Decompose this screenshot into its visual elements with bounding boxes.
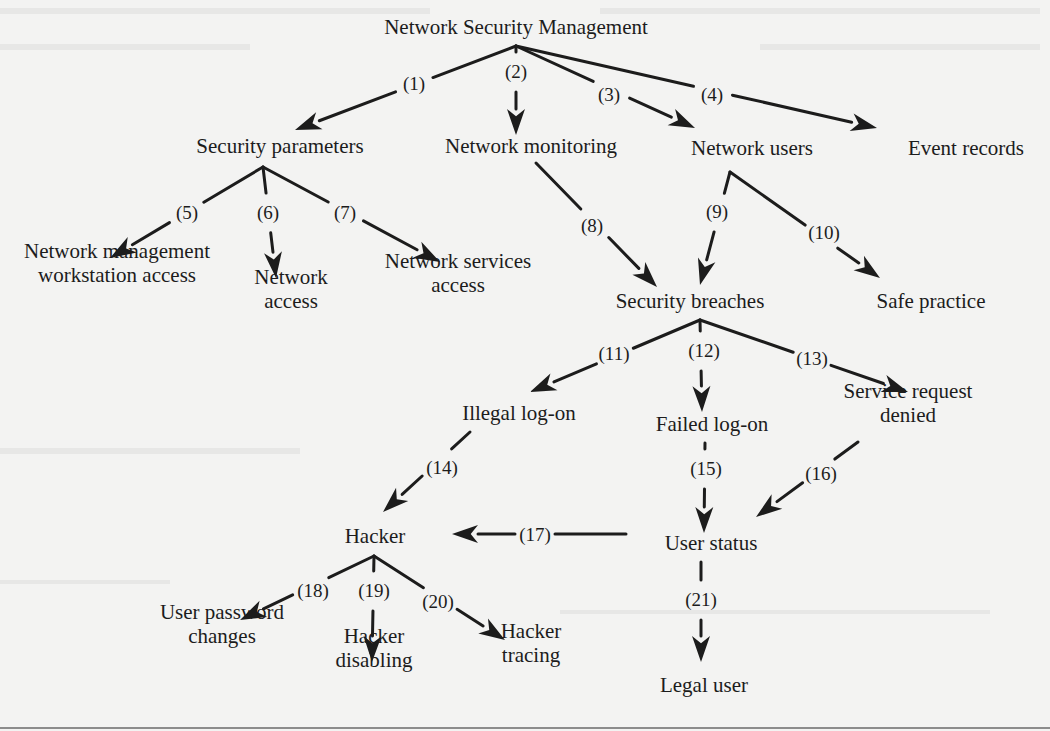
edge-number-label: (4) (701, 84, 723, 106)
node-security-breaches: Security breaches (616, 289, 765, 313)
edge-number-label: (19) (358, 580, 390, 602)
node-label-line: Network services (385, 249, 531, 273)
node-label-line: Security breaches (616, 289, 765, 313)
arrowhead-icon (507, 109, 525, 135)
edge-number-label: (1) (403, 73, 425, 95)
edge-7: (7) (263, 167, 440, 262)
diagram-canvas: (1)(2)(3)(4)(5)(6)(7)(8)(9)(10)(11)(12)(… (0, 0, 1050, 731)
node-label-line: Hacker (344, 624, 405, 648)
edge-line-segment (732, 95, 851, 122)
edge-line-segment (536, 163, 581, 209)
node-label-line: disabling (336, 648, 413, 672)
node-network-access: Networkaccess (254, 265, 328, 313)
edge-line-segment (263, 167, 328, 202)
arrowhead-icon (850, 113, 877, 131)
node-legal-user: Legal user (660, 673, 748, 697)
edge-line-segment (724, 172, 730, 193)
node-network-users: Network users (691, 136, 813, 160)
edge-line-segment (271, 233, 273, 252)
arrowhead-icon (756, 494, 782, 517)
edge-14: (14) (383, 432, 470, 512)
edge-11: (11) (530, 320, 700, 392)
edge-number-label: (2) (505, 61, 527, 83)
network-security-tree: (1)(2)(3)(4)(5)(6)(7)(8)(9)(10)(11)(12)(… (0, 0, 1050, 731)
edge-number-label: (14) (426, 457, 458, 479)
node-event-records: Event records (908, 136, 1024, 160)
edge-line-segment (516, 46, 693, 86)
arrowhead-icon (695, 507, 713, 533)
edge-number-label: (8) (581, 215, 603, 237)
edge-number-label: (9) (706, 201, 728, 223)
node-hacker: Hacker (345, 524, 406, 548)
node-label-line: workstation access (38, 263, 196, 287)
edge-line-segment (838, 248, 859, 263)
node-label-line: User status (665, 531, 758, 555)
node-service-request-denied: Service requestdenied (844, 379, 973, 427)
edge-number-label: (10) (808, 222, 840, 244)
node-root: Network Security Management (384, 15, 648, 39)
edge-line-segment (363, 221, 417, 250)
node-user-status: User status (665, 531, 758, 555)
node-network-monitoring: Network monitoring (445, 134, 618, 158)
edge-line-segment (433, 46, 516, 78)
node-security-parameters: Security parameters (196, 134, 363, 158)
edge-line-segment (402, 476, 422, 494)
node-label-line: Network monitoring (445, 134, 618, 158)
edge-line-segment (516, 46, 593, 81)
edge-line-segment (630, 98, 672, 117)
edge-line-segment (707, 232, 714, 260)
arrowhead-icon (692, 386, 710, 412)
edge-number-label: (21) (685, 589, 717, 611)
edge-number-label: (12) (688, 340, 720, 362)
edge-number-label: (18) (297, 580, 329, 602)
node-label-line: Security parameters (196, 134, 363, 158)
arrowhead-icon (854, 256, 880, 278)
node-hacker-disabling: Hackerdisabling (336, 624, 413, 672)
edge-number-label: (3) (598, 84, 620, 106)
edge-line-segment (263, 167, 266, 193)
edge-line-segment (554, 364, 597, 382)
node-label-line: Failed log-on (656, 412, 769, 436)
edge-1: (1) (295, 46, 516, 130)
node-label-line: Network (254, 265, 328, 289)
node-illegal-log-on: Illegal log-on (462, 401, 576, 425)
arrowhead-icon (452, 525, 478, 543)
edge-15: (15) (690, 443, 722, 533)
edge-number-label: (5) (176, 202, 198, 224)
node-label-line: denied (880, 403, 936, 427)
edge-number-label: (13) (796, 348, 828, 370)
node-label-line: Safe practice (876, 289, 985, 313)
node-label-line: Network users (691, 136, 813, 160)
node-label-line: Hacker (345, 524, 406, 548)
edge-number-label: (16) (805, 463, 837, 485)
edge-line-segment (319, 92, 395, 121)
edge-6: (6) (257, 167, 282, 278)
node-label-line: Network Security Management (384, 15, 648, 39)
edge-8: (8) (536, 163, 657, 287)
node-user-password-changes: User passwordchanges (160, 600, 285, 648)
node-label-line: Event records (908, 136, 1024, 160)
node-network-services-access: Network servicesaccess (385, 249, 531, 297)
edge-line-segment (457, 609, 483, 626)
node-label-line: Network management (24, 239, 210, 263)
edge-4: (4) (516, 46, 877, 131)
arrowhead-icon (692, 636, 710, 662)
edge-line-segment (452, 432, 470, 449)
node-label-line: User password (160, 600, 285, 624)
edge-line-segment (730, 172, 805, 225)
edge-number-label: (20) (422, 591, 454, 613)
edge-number-label: (15) (690, 458, 722, 480)
edge-2: (2) (505, 46, 527, 135)
node-label-line: access (431, 273, 485, 297)
node-label-line: Legal user (660, 673, 748, 697)
edge-17: (17) (452, 524, 626, 546)
node-label-line: Illegal log-on (462, 401, 576, 425)
edge-3: (3) (516, 46, 695, 128)
node-label-line: Service request (844, 379, 973, 403)
edge-number-label: (6) (257, 202, 279, 224)
node-label-line: tracing (502, 643, 561, 667)
edge-line-segment (777, 483, 803, 502)
node-failed-log-on: Failed log-on (656, 412, 769, 436)
nodes: Network Security ManagementSecurity para… (24, 15, 1024, 697)
edge-12: (12) (688, 320, 720, 412)
